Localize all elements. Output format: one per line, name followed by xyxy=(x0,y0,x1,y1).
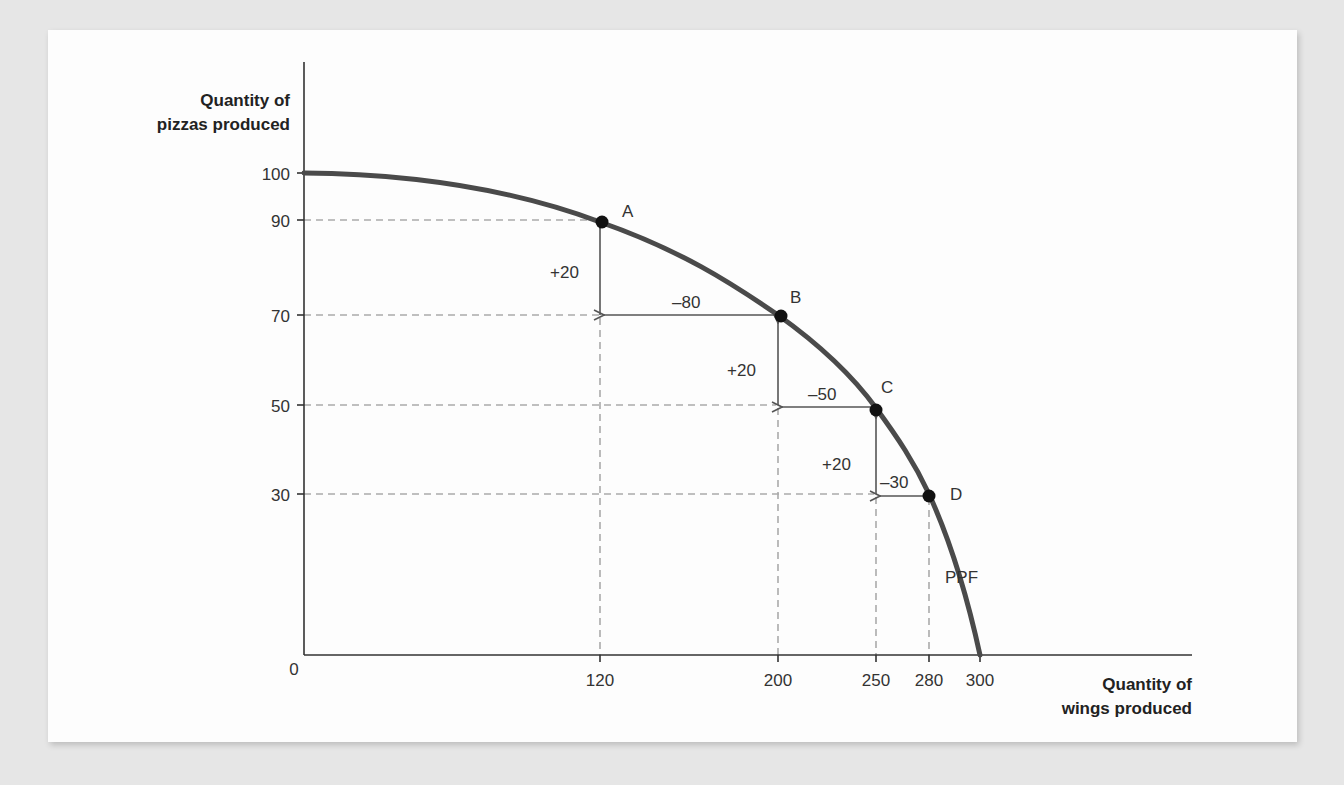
y-tick-90: 90 xyxy=(271,212,290,231)
point-label-c: C xyxy=(881,378,893,397)
origin-label: 0 xyxy=(289,660,298,679)
y-axis-title-line2: pizzas produced xyxy=(157,115,290,134)
y-tick-70: 70 xyxy=(271,307,290,326)
x-axis-title-line1: Quantity of xyxy=(1102,675,1192,694)
point-b xyxy=(775,310,788,323)
guide-lines xyxy=(304,220,929,655)
ppf-chart: Quantity of pizzas produced Quantity of … xyxy=(0,0,1344,785)
change-label-b-left: –80 xyxy=(672,293,700,312)
x-tick-200: 200 xyxy=(764,671,792,690)
change-label-a-up: +20 xyxy=(550,263,579,282)
point-label-b: B xyxy=(790,288,801,307)
change-arrows xyxy=(600,228,926,496)
point-c xyxy=(870,404,883,417)
change-labels: +20 –80 +20 –50 +20 –30 xyxy=(550,263,908,492)
points xyxy=(596,216,936,503)
x-tick-300: 300 xyxy=(966,671,994,690)
x-axis-title-line2: wings produced xyxy=(1061,699,1192,718)
y-tick-100: 100 xyxy=(262,165,290,184)
y-tick-labels: 100 90 70 50 30 xyxy=(262,165,290,505)
point-a xyxy=(596,216,609,229)
x-tick-120: 120 xyxy=(586,671,614,690)
y-tick-30: 30 xyxy=(271,486,290,505)
point-label-d: D xyxy=(950,485,962,504)
x-tick-280: 280 xyxy=(915,671,943,690)
x-tick-250: 250 xyxy=(862,671,890,690)
ppf-label: PPF xyxy=(945,568,978,587)
point-label-a: A xyxy=(622,202,634,221)
x-tick-labels: 0 120 200 250 280 300 xyxy=(289,660,994,690)
change-label-c-up: +20 xyxy=(822,455,851,474)
y-tick-50: 50 xyxy=(271,397,290,416)
point-d xyxy=(923,490,936,503)
change-label-b-up: +20 xyxy=(727,361,756,380)
y-axis-title-line1: Quantity of xyxy=(200,91,290,110)
change-label-c-left: –50 xyxy=(808,385,836,404)
change-label-d-left: –30 xyxy=(880,473,908,492)
